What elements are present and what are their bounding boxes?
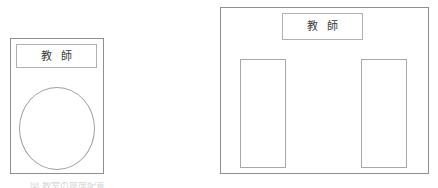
right-teacher-label-text: 教 師: [304, 21, 342, 32]
right-teacher-label-box: 教 師: [282, 13, 363, 40]
caption-clip: 図 教室の座席配置: [0, 182, 438, 188]
left-seating-circle: [19, 87, 95, 170]
right-seating-column-right: [361, 59, 407, 168]
caption-text: 図 教室の座席配置: [30, 182, 105, 188]
diagram-canvas: 教 師 教 師 図 教室の座席配置: [0, 0, 438, 188]
left-teacher-label-box: 教 師: [16, 44, 97, 68]
left-teacher-label-text: 教 師: [38, 51, 76, 62]
right-seating-column-left: [240, 59, 286, 168]
